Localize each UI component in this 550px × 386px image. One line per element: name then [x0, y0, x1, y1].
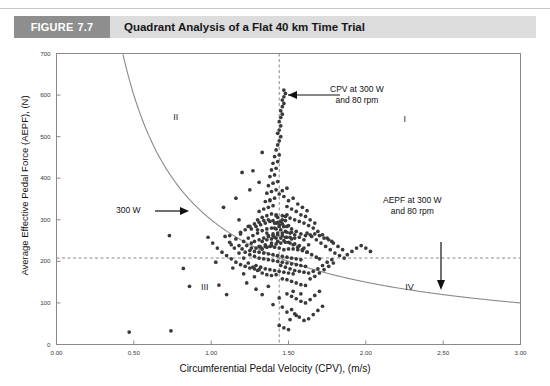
data-point: [260, 293, 264, 297]
data-point: [285, 213, 289, 217]
data-point: [304, 215, 308, 219]
data-point: [327, 238, 331, 242]
data-point: [294, 297, 298, 301]
data-point: [181, 267, 185, 271]
data-point: [243, 228, 247, 232]
data-point: [280, 189, 284, 193]
data-point: [270, 190, 274, 194]
data-point: [299, 292, 303, 296]
data-point: [277, 192, 281, 196]
y-tick-label: 0: [29, 341, 51, 348]
data-point: [282, 195, 286, 199]
data-point: [285, 278, 289, 282]
data-point: [237, 251, 241, 255]
data-point: [234, 260, 238, 264]
data-point: [291, 247, 295, 251]
data-point: [268, 198, 272, 202]
data-point: [293, 269, 297, 273]
data-point: [168, 234, 172, 238]
data-point: [277, 225, 281, 229]
data-point: [251, 169, 255, 173]
data-point: [277, 153, 281, 157]
data-point: [277, 128, 281, 132]
data-point: [280, 277, 284, 281]
data-point: [274, 236, 278, 240]
data-point: [279, 124, 283, 128]
data-point: [216, 246, 220, 250]
data-point: [277, 324, 281, 328]
data-point: [369, 250, 373, 254]
data-point: [253, 275, 257, 279]
data-point: [276, 231, 280, 235]
data-point: [288, 241, 292, 245]
data-point: [310, 253, 314, 257]
data-point: [364, 246, 368, 250]
data-point: [280, 98, 284, 102]
data-point: [294, 281, 298, 285]
data-point: [246, 236, 250, 240]
data-point: [243, 265, 247, 269]
data-point: [284, 240, 288, 244]
data-point: [342, 256, 346, 260]
data-point: [285, 292, 289, 296]
data-point: [293, 312, 297, 316]
data-point: [280, 255, 284, 259]
data-point: [290, 294, 294, 298]
data-point: [279, 135, 283, 139]
data-point: [277, 120, 281, 124]
data-point: [267, 218, 271, 222]
data-point: [321, 264, 325, 268]
data-point: [274, 273, 278, 277]
data-point: [256, 228, 260, 232]
data-point: [282, 95, 286, 99]
data-point: [336, 245, 340, 249]
data-point: [265, 191, 269, 195]
data-point: [330, 258, 334, 262]
data-point: [282, 326, 286, 330]
data-point: [284, 219, 288, 223]
quadrant-label-i: I: [404, 114, 407, 124]
scatter-plot-svg: [0, 40, 550, 386]
data-point: [290, 230, 294, 234]
data-point: [268, 268, 272, 272]
data-point: [271, 161, 275, 165]
data-point: [293, 233, 297, 237]
data-point: [350, 250, 354, 254]
data-point: [277, 269, 281, 273]
data-point: [253, 255, 257, 259]
data-point: [285, 230, 289, 234]
data-point: [274, 148, 278, 152]
data-point: [282, 225, 286, 229]
data-point: [267, 184, 271, 188]
data-point: [294, 257, 298, 261]
data-point: [305, 250, 309, 254]
data-point: [313, 221, 317, 225]
data-point: [291, 272, 295, 276]
data-point: [214, 260, 218, 264]
data-point: [248, 249, 252, 253]
data-point: [333, 251, 337, 255]
data-point: [270, 274, 274, 278]
data-point: [293, 236, 297, 240]
data-point: [262, 257, 266, 261]
data-point: [274, 188, 278, 192]
quadrant-label-iii: III: [201, 282, 209, 292]
data-point: [259, 245, 263, 249]
data-point: [206, 235, 210, 239]
data-point: [322, 236, 326, 240]
data-point: [301, 205, 305, 209]
data-point: [242, 256, 246, 260]
data-point: [277, 139, 281, 143]
data-point: [256, 231, 260, 235]
data-point: [290, 262, 294, 266]
data-point: [267, 284, 271, 288]
data-point: [332, 241, 336, 245]
data-point: [276, 254, 280, 258]
data-point: [276, 260, 280, 264]
y-tick-label: 500: [29, 133, 51, 140]
data-point: [271, 232, 275, 236]
data-point: [304, 234, 308, 238]
y-tick-label: 400: [29, 174, 51, 181]
data-point: [254, 246, 258, 250]
data-point: [321, 233, 325, 237]
